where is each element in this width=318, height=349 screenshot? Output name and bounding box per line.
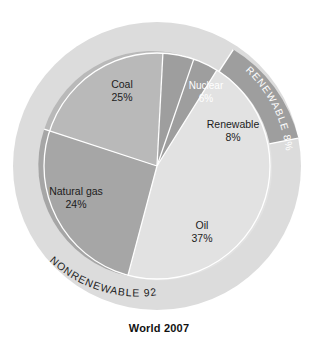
pie-chart-canvas: Coal 25% Natural gas 24% Oil 37% Renewab… xyxy=(0,0,318,349)
chart-title: World 2007 xyxy=(0,322,318,334)
pie-chart-figure: Coal 25% Natural gas 24% Oil 37% Renewab… xyxy=(0,0,318,349)
